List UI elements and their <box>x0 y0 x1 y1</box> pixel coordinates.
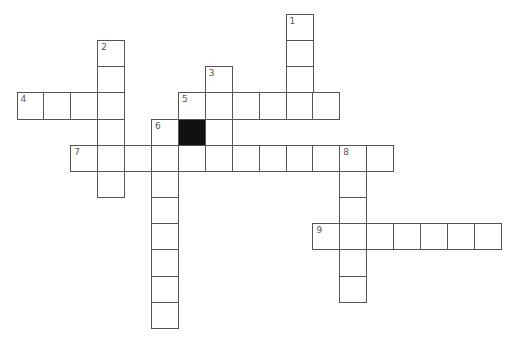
crossword-cell[interactable]: 3 <box>205 66 233 93</box>
crossword-cell[interactable] <box>97 92 125 119</box>
crossword-cell[interactable] <box>232 92 260 119</box>
clue-number: 6 <box>155 121 161 131</box>
crossword-cell[interactable] <box>232 145 260 172</box>
crossword-cell[interactable] <box>259 92 287 119</box>
clue-number: 7 <box>74 147 80 157</box>
crossword-cell[interactable]: 1 <box>286 14 314 41</box>
crossword-cell[interactable] <box>97 119 125 146</box>
crossword-cell[interactable] <box>339 249 367 276</box>
crossword-cell[interactable] <box>178 145 206 172</box>
crossword-cell[interactable] <box>151 276 179 303</box>
crossword-cell[interactable] <box>97 66 125 93</box>
crossword-cell[interactable] <box>474 223 502 250</box>
crossword-cell[interactable] <box>124 145 152 172</box>
crossword-grid: 123456789 <box>0 0 515 339</box>
clue-number: 4 <box>21 94 27 104</box>
crossword-cell[interactable] <box>97 145 125 172</box>
crossword-cell[interactable] <box>205 92 233 119</box>
crossword-cell[interactable] <box>286 145 314 172</box>
crossword-cell[interactable] <box>151 197 179 224</box>
crossword-cell[interactable]: 7 <box>70 145 98 172</box>
crossword-cell[interactable] <box>447 223 475 250</box>
crossword-cell[interactable] <box>286 92 314 119</box>
crossword-cell[interactable] <box>286 66 314 93</box>
clue-number: 9 <box>316 225 322 235</box>
crossword-cell[interactable]: 6 <box>151 119 179 146</box>
crossword-cell[interactable] <box>259 145 287 172</box>
crossword-cell[interactable] <box>312 145 340 172</box>
crossword-cell[interactable] <box>420 223 448 250</box>
crossword-cell[interactable] <box>366 223 394 250</box>
crossword-cell[interactable] <box>97 171 125 198</box>
crossword-cell[interactable]: 9 <box>312 223 340 250</box>
crossword-cell[interactable] <box>393 223 421 250</box>
clue-number: 3 <box>209 68 215 78</box>
crossword-cell[interactable] <box>312 92 340 119</box>
crossword-cell[interactable] <box>151 249 179 276</box>
crossword-cell[interactable] <box>286 40 314 67</box>
crossword-cell[interactable] <box>151 302 179 329</box>
block-cell <box>178 119 206 146</box>
crossword-cell[interactable]: 4 <box>17 92 45 119</box>
clue-number: 1 <box>290 16 296 26</box>
crossword-cell[interactable]: 5 <box>178 92 206 119</box>
crossword-cell[interactable]: 8 <box>339 145 367 172</box>
crossword-cell[interactable] <box>205 145 233 172</box>
crossword-cell[interactable] <box>366 145 394 172</box>
crossword-cell[interactable]: 2 <box>97 40 125 67</box>
crossword-cell[interactable] <box>339 223 367 250</box>
crossword-cell[interactable] <box>339 276 367 303</box>
crossword-cell[interactable] <box>151 145 179 172</box>
clue-number: 2 <box>101 42 107 52</box>
clue-number: 5 <box>182 94 188 104</box>
crossword-cell[interactable] <box>151 223 179 250</box>
crossword-cell[interactable] <box>205 119 233 146</box>
crossword-cell[interactable] <box>43 92 71 119</box>
crossword-cell[interactable] <box>339 197 367 224</box>
clue-number: 8 <box>343 147 349 157</box>
crossword-cell[interactable] <box>339 171 367 198</box>
crossword-cell[interactable] <box>70 92 98 119</box>
crossword-cell[interactable] <box>151 171 179 198</box>
